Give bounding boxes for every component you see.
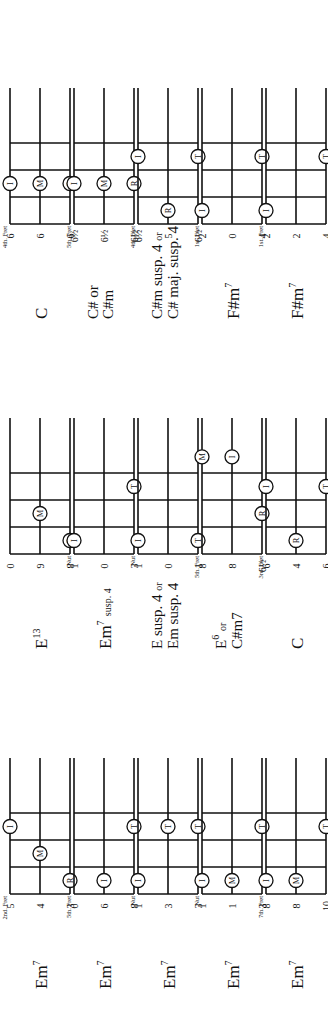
finger-dot-i: I (259, 480, 273, 494)
finger-dot-m: M (97, 177, 111, 191)
fret-position-label: 7th. Fret (257, 896, 264, 918)
string-fret-number: 0 (5, 564, 16, 569)
string-fret-number: 6 (99, 904, 110, 909)
chord-diagram: Em7 susp. 4103NutIT (72, 319, 134, 649)
string-fret-number: 4 (321, 234, 328, 239)
string-fret-number: 0 (99, 564, 110, 569)
chord-diagram: Em7133NutITT (136, 659, 198, 989)
finger-dot-i: I (225, 450, 239, 464)
string-fret-number: 8 (291, 904, 302, 909)
fret-position-label: Nut (129, 556, 136, 566)
svg-text:M: M (197, 453, 207, 461)
finger-dot-m: M (225, 874, 239, 888)
svg-text:I: I (99, 879, 109, 882)
finger-dot-m: M (33, 177, 47, 191)
fret-position-label: 1st. Fret (257, 226, 264, 248)
svg-text:T: T (321, 483, 328, 489)
string-fret-number: 6 (35, 234, 46, 239)
finger-dot-i: I (67, 177, 81, 191)
finger-dot-i: I (259, 204, 273, 218)
chord-diagram: C#m susp. 4 orC# maj. susp. 46½56½4th. F… (136, 0, 198, 319)
string-fret-number: 0 (163, 564, 174, 569)
svg-text:I: I (197, 879, 207, 882)
finger-dot-r: R (161, 204, 175, 218)
finger-dot-i: I (259, 874, 273, 888)
fret-position-label: 2nd. Fret (1, 896, 8, 920)
fret-position-label: 5th. Fret (193, 556, 200, 578)
svg-text:T: T (163, 823, 173, 829)
fretboard: 0685th. FretIT (72, 659, 134, 989)
fret-position-label: 5th. Fret (65, 226, 72, 248)
chord-diagram: C# orC#m6½6½6½5th. FretIMR (72, 0, 134, 319)
string-fret-number: 5 (163, 234, 174, 239)
fret-position-label: 1st. Fret (193, 226, 200, 248)
chord-row-5: Em788107th. FretIMTC6463rd. FretIRTF#m72… (264, 0, 326, 1019)
chord-row-3: Em7133NutITTE susp. 4 orEm susp. 4101Nut… (136, 0, 198, 1019)
svg-text:I: I (261, 879, 271, 882)
chord-diagram: E13098MR (8, 319, 70, 649)
string-fret-number: 6½ (99, 229, 110, 242)
fret-position-label: 3rd. Fret (257, 556, 264, 579)
finger-dot-m: M (195, 450, 209, 464)
svg-text:I: I (261, 485, 271, 488)
svg-text:T: T (321, 153, 328, 159)
chord-diagram: Em7113NutIMT (200, 659, 262, 989)
fretboard: 2241st. FretIT (264, 0, 326, 319)
finger-dot-i: I (131, 874, 145, 888)
finger-dot-m: M (33, 507, 47, 521)
fretboard: 133NutITT (136, 659, 198, 989)
chord-diagram: Em75432nd. FretIMR (8, 659, 70, 989)
svg-text:I: I (5, 825, 15, 828)
chord-chart-page: Em75432nd. FretIMRE13098MRC6664th. FretI… (0, 0, 328, 1019)
fretboard: 2041st. FretIT (200, 0, 262, 319)
chord-diagram: Em788107th. FretIMT (264, 659, 326, 989)
string-fret-number: 1 (227, 904, 238, 909)
svg-text:I: I (5, 182, 15, 185)
finger-dot-t: T (319, 480, 328, 494)
svg-text:M: M (35, 509, 45, 517)
svg-text:M: M (99, 179, 109, 187)
finger-dot-i: I (3, 177, 17, 191)
chord-diagram: C6463rd. FretIRT (264, 319, 326, 649)
svg-text:M: M (227, 876, 237, 884)
fret-position-label: 4th. Fret (1, 226, 8, 248)
svg-text:I: I (69, 539, 79, 542)
chord-diagram: Em70685th. FretIT (72, 659, 134, 989)
finger-dot-r: R (289, 534, 303, 548)
chord-row-4: Em7113NutIMTE6 orC#m7886½5th. FretMIRF#m… (200, 0, 262, 1019)
chord-diagram: E susp. 4 orEm susp. 4101NutIT (136, 319, 198, 649)
fretboard: 103NutIT (72, 319, 134, 649)
fret-position-label: Nut (193, 896, 200, 906)
fretboard: 6½56½4th. FretIRT (136, 0, 198, 319)
string-fret-number: 2 (291, 234, 302, 239)
finger-dot-i: I (131, 534, 145, 548)
fretboard: 113NutIMT (200, 659, 262, 989)
finger-dot-i: I (195, 204, 209, 218)
svg-text:I: I (227, 455, 237, 458)
svg-text:R: R (291, 537, 301, 543)
fretboard: 5432nd. FretIMR (8, 659, 70, 989)
fretboard: 6664th. FretIMR (8, 0, 70, 319)
svg-text:I: I (133, 539, 143, 542)
finger-dot-m: M (33, 847, 47, 861)
svg-text:T: T (321, 823, 328, 829)
fretboard: 098MR (8, 319, 70, 649)
fret-position-label: Nut (129, 896, 136, 906)
svg-text:M: M (35, 849, 45, 857)
string-fret-number: 6 (321, 564, 328, 569)
string-fret-number: 4 (291, 564, 302, 569)
svg-text:I: I (133, 879, 143, 882)
svg-text:I: I (69, 182, 79, 185)
finger-dot-t: T (319, 150, 328, 164)
fretboard: 88107th. FretIMT (264, 659, 326, 989)
string-fret-number: 8 (227, 564, 238, 569)
string-fret-number: 10 (321, 901, 328, 911)
chord-diagram: F#m72241st. FretIT (264, 0, 326, 319)
fret-position-label: Nut (65, 556, 72, 566)
finger-dot-i: I (67, 534, 81, 548)
svg-text:I: I (133, 155, 143, 158)
svg-text:M: M (291, 876, 301, 884)
chord-row-1: Em75432nd. FretIMRE13098MRC6664th. FretI… (8, 0, 70, 1019)
svg-text:M: M (35, 179, 45, 187)
chord-diagram: C6664th. FretIMR (8, 0, 70, 319)
